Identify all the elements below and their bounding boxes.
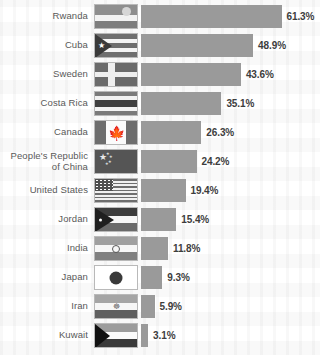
bar-container: 26.3%: [138, 120, 320, 145]
value-label: 24.2%: [202, 156, 230, 167]
bar-container: 35.1%: [138, 91, 320, 116]
country-label: Canada: [0, 127, 94, 138]
flag-japan-icon: [94, 265, 138, 290]
value-label: 9.3%: [167, 272, 189, 283]
bar-container: 9.3%: [138, 265, 320, 290]
chart-row: People's Republic of China ★ ★ ★ ★ ★ 24.…: [0, 147, 320, 176]
chart-row: Cuba ★ 48.9%: [0, 31, 320, 60]
chart-row: Costa Rica 35.1%: [0, 89, 320, 118]
chart-row: Iran ☸ 5.9%: [0, 292, 320, 321]
flag-jordan-icon: [94, 207, 138, 232]
bar: [141, 324, 148, 347]
country-label: India: [0, 243, 94, 254]
value-label: 26.3%: [206, 127, 234, 138]
value-label: 43.6%: [246, 69, 274, 80]
bar: [141, 295, 155, 318]
bar-container: 5.9%: [138, 294, 320, 319]
country-label: Sweden: [0, 69, 94, 80]
chart-row: United States 19.4%: [0, 176, 320, 205]
bar: [141, 266, 162, 289]
bar: [141, 208, 176, 231]
bar: [141, 63, 241, 86]
bar-container: 3.1%: [138, 323, 320, 348]
flag-rwanda-icon: [94, 4, 138, 29]
flag-china-icon: ★ ★ ★ ★ ★: [94, 149, 138, 174]
country-label: Jordan: [0, 214, 94, 225]
chart-row: Jordan 15.4%: [0, 205, 320, 234]
chart-row: Japan 9.3%: [0, 263, 320, 292]
flag-canada-icon: 🍁: [94, 120, 138, 145]
value-label: 5.9%: [160, 301, 182, 312]
flag-iran-icon: ☸: [94, 294, 138, 319]
chart-row: India 11.8%: [0, 234, 320, 263]
bar: [141, 92, 221, 115]
bar-container: 24.2%: [138, 149, 320, 174]
flag-united-states-icon: [94, 178, 138, 203]
country-label: Costa Rica: [0, 98, 94, 109]
flag-costa-rica-icon: [94, 91, 138, 116]
value-label: 3.1%: [153, 330, 175, 341]
chart-row: Canada 🍁 26.3%: [0, 118, 320, 147]
chart-row: Rwanda 61.3%: [0, 2, 320, 31]
bar: [141, 179, 186, 202]
country-label: Iran: [0, 301, 94, 312]
bar-container: 43.6%: [138, 62, 320, 87]
bar-container: 61.3%: [138, 4, 320, 29]
value-label: 48.9%: [258, 40, 286, 51]
bar-container: 15.4%: [138, 207, 320, 232]
bar: [141, 121, 201, 144]
chart-row: Kuwait 3.1%: [0, 321, 320, 350]
flag-kuwait-icon: [94, 323, 138, 348]
bar-chart: Rwanda 61.3% Cuba ★ 48.9% Sweden: [0, 0, 320, 355]
chart-row: Sweden 43.6%: [0, 60, 320, 89]
country-label: Japan: [0, 272, 94, 283]
country-label: Cuba: [0, 40, 94, 51]
flag-sweden-icon: [94, 62, 138, 87]
country-label: United States: [0, 185, 94, 196]
flag-cuba-icon: ★: [94, 33, 138, 58]
bar: [141, 5, 282, 28]
bar: [141, 237, 168, 260]
country-label: People's Republic of China: [0, 151, 94, 172]
value-label: 15.4%: [181, 214, 209, 225]
bar-container: 11.8%: [138, 236, 320, 261]
value-label: 11.8%: [173, 243, 200, 254]
bar-container: 19.4%: [138, 178, 320, 203]
bar: [141, 150, 197, 173]
bar: [141, 34, 253, 57]
value-label: 61.3%: [287, 11, 315, 22]
country-label: Kuwait: [0, 330, 94, 341]
bar-container: 48.9%: [138, 33, 320, 58]
value-label: 19.4%: [191, 185, 219, 196]
flag-india-icon: [94, 236, 138, 261]
country-label: Rwanda: [0, 11, 94, 22]
value-label: 35.1%: [226, 98, 254, 109]
